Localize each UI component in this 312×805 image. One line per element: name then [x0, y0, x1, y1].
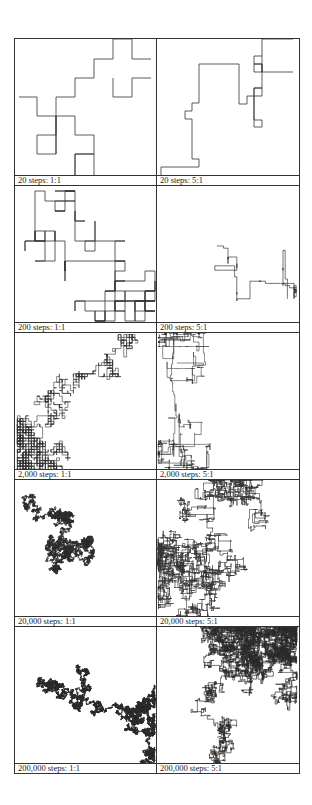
- panel-200000-steps-5-1: 200,000 steps: 5:1: [157, 627, 299, 773]
- panel-label: 2,000 steps: 5:1: [157, 469, 299, 479]
- panel-20000-steps-1-1: 20,000 steps: 1:1: [15, 480, 157, 627]
- panel-200000-steps-1-1: 200,000 steps: 1:1: [15, 627, 157, 773]
- panel-label: 200 steps: 1:1: [15, 322, 156, 332]
- random-walk-plot: [15, 480, 156, 616]
- row-200-steps: 200 steps: 1:1 200 steps: 5:1: [15, 186, 299, 333]
- panel-label: 200,000 steps: 5:1: [157, 763, 299, 773]
- random-walk-plot: [15, 333, 156, 469]
- panel-label: 20 steps: 5:1: [157, 175, 299, 185]
- panel-2000-steps-1-1: 2,000 steps: 1:1: [15, 333, 157, 480]
- panel-label: 20,000 steps: 5:1: [157, 616, 299, 626]
- row-200000-steps: 200,000 steps: 1:1 200,000 steps: 5:1: [15, 627, 299, 773]
- panel-label: 20 steps: 1:1: [15, 175, 156, 185]
- panel-label: 200 steps: 5:1: [157, 322, 299, 332]
- random-walk-plot: [15, 186, 156, 322]
- panel-200-steps-1-1: 200 steps: 1:1: [15, 186, 157, 333]
- panel-label: 2,000 steps: 1:1: [15, 469, 156, 479]
- random-walk-plot: [157, 480, 299, 616]
- random-walk-plot: [157, 333, 299, 469]
- random-walk-plot: [15, 39, 156, 175]
- row-20-steps: 20 steps: 1:1 20 steps: 5:1: [15, 39, 299, 186]
- panel-label: 200,000 steps: 1:1: [15, 763, 156, 773]
- row-2000-steps: 2,000 steps: 1:1 2,000 steps: 5:1: [15, 333, 299, 480]
- row-20000-steps: 20,000 steps: 1:1 20,000 steps: 5:1: [15, 480, 299, 627]
- panel-200-steps-5-1: 200 steps: 5:1: [157, 186, 299, 333]
- panel-label: 20,000 steps: 1:1: [15, 616, 156, 626]
- random-walk-plot: [15, 627, 156, 763]
- random-walk-figure: 20 steps: 1:1 20 steps: 5:1 200 steps: 1…: [14, 38, 300, 774]
- panel-2000-steps-5-1: 2,000 steps: 5:1: [157, 333, 299, 480]
- random-walk-plot: [157, 627, 299, 763]
- panel-20-steps-5-1: 20 steps: 5:1: [157, 39, 299, 186]
- panel-20000-steps-5-1: 20,000 steps: 5:1: [157, 480, 299, 627]
- random-walk-plot: [157, 39, 299, 175]
- random-walk-plot: [157, 186, 299, 322]
- panel-20-steps-1-1: 20 steps: 1:1: [15, 39, 157, 186]
